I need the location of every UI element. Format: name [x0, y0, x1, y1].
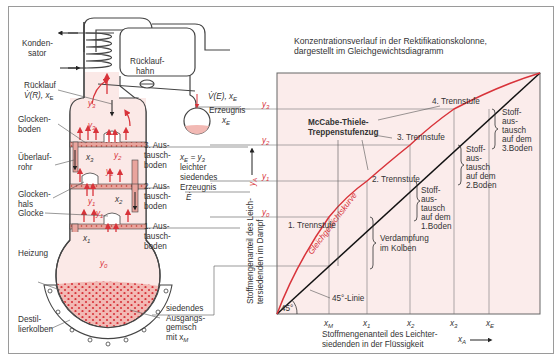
stage-1-label: 1. Trennstufe — [288, 221, 336, 230]
still-label: Destil-lierkolben — [18, 315, 53, 334]
product-x-label: xE — [221, 116, 231, 126]
downcomer-label: Überlauf-rohr — [18, 152, 52, 172]
svg-text:y2: y2 — [261, 136, 270, 146]
reflux-label: RücklaufV̇(R), xE — [24, 81, 57, 101]
product-flask — [184, 76, 210, 134]
x-axis-symbol: xA — [457, 335, 466, 345]
x-tick-labels: xM x1 x2 x3 xE — [323, 319, 495, 329]
condenser-label: Konden-sator — [22, 39, 53, 58]
equilibrium-chart: Konzentrationsverlauf in der Rektifikati… — [246, 36, 540, 349]
product-label: Erzeugnis — [209, 106, 245, 115]
svg-text:x1: x1 — [362, 319, 370, 329]
stage-2-label: 2. Trennstufe — [372, 175, 420, 184]
rectification-figure: Konden-sator Rücklauf-hahn RücklaufV̇(R)… — [0, 0, 559, 362]
distillate-flow-label: V̇(E), xE — [208, 91, 238, 102]
mccabe-thiele-label: McCabe-Thiele-Treppenstufenzug — [308, 118, 379, 137]
svg-text:y3: y3 — [261, 100, 270, 110]
svg-text:y0: y0 — [261, 208, 270, 218]
angle-label: 45° — [281, 304, 293, 313]
y-tick-labels: y3 y2 y1 y0 — [261, 100, 270, 218]
tray1-label: 1. Aus-tausch-boden — [144, 222, 171, 251]
svg-text:xM: xM — [323, 319, 333, 329]
product-note: xE = y3 leichter siedendes Erzeugnis Ė — [179, 153, 220, 202]
bubble-tray-label: Glocken-boden — [18, 115, 51, 134]
svg-text:xE: xE — [485, 319, 495, 329]
y-axis-symbol: yA — [248, 178, 258, 187]
svg-text:x2: x2 — [406, 319, 415, 329]
condenser-coil — [60, 33, 114, 68]
svg-text:y1: y1 — [261, 172, 269, 182]
x-axis-label: Stoffmengenanteil des Leichter-siedenden… — [322, 330, 438, 349]
stage-3-label: 3. Trennstufe — [397, 133, 445, 142]
tray2-label: 2. Aus-tausch-boden — [144, 182, 171, 211]
chart-title: Konzentrationsverlauf in der Rektifikati… — [294, 36, 487, 56]
boiling-mixture-label: siedendes Ausgangs- gemisch mit xM — [166, 304, 207, 343]
svg-text:x3: x3 — [449, 319, 458, 329]
bubble-cap-label: Glocke — [18, 209, 44, 218]
stage-4-label: 4. Trennstufe — [432, 97, 480, 106]
diagonal-label: 45°-Linie — [332, 294, 365, 303]
reflux-loop — [120, 28, 195, 76]
bubble-neck-label: Glocken-hals — [18, 190, 51, 209]
heating-label: Heizung — [18, 249, 48, 258]
tray3-label: 3. Aus-tausch-boden — [144, 141, 171, 170]
